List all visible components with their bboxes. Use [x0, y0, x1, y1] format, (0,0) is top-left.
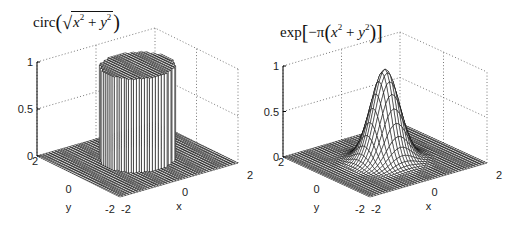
exp-y: 2: [107, 12, 112, 22]
x-tick-label: 2: [247, 169, 253, 181]
y-tick-label: 0: [65, 183, 71, 195]
z-tick-label: 1: [273, 60, 279, 72]
title-gaussian: exp[−π(x2 + y2)]: [280, 20, 383, 40]
x-axis-label: x: [426, 200, 432, 212]
y-tick-label: -2: [105, 203, 115, 215]
paren-open: (: [324, 21, 331, 43]
plot-gaussian: 00.51-202-202xy: [264, 32, 502, 215]
exp-x: 2: [80, 12, 85, 22]
y-tick-label: 2: [278, 156, 284, 168]
z-tick-label: 1: [27, 56, 33, 68]
title-paren-close: ): [113, 11, 120, 33]
var-x: x: [73, 14, 80, 30]
y-axis-label: y: [314, 201, 320, 213]
x-tick-label: 0: [182, 186, 188, 198]
y-tick-label: 2: [32, 155, 38, 167]
x-tick-label: 0: [431, 186, 437, 198]
figure: 00.51-202-202xy 00.51-202-202xy circ(√x2…: [0, 0, 512, 227]
x-tick-label: -2: [121, 203, 131, 215]
var-y: y: [358, 24, 365, 40]
radical-sign: √: [62, 13, 72, 33]
y-tick-label: -2: [355, 203, 365, 215]
x-tick-label: 2: [496, 169, 502, 181]
y-tick-label: 0: [313, 183, 319, 195]
minus-pi: −π: [308, 24, 324, 40]
title-fn: circ: [33, 14, 55, 30]
plots-canvas: 00.51-202-202xy 00.51-202-202xy: [0, 0, 512, 227]
exp-x: 2: [338, 22, 343, 32]
y-axis-label: y: [66, 201, 72, 213]
radicand: x2 + y2: [71, 11, 113, 30]
z-tick-label: 0.5: [18, 103, 33, 115]
var-y: y: [100, 14, 107, 30]
x-tick-label: -2: [371, 203, 381, 215]
title-circ: circ(√x2 + y2): [33, 10, 120, 30]
title-fn: exp: [280, 24, 302, 40]
bracket-open: [: [302, 21, 309, 43]
bracket-close: ]: [376, 21, 383, 43]
plot-circ: 00.51-202-202xy: [18, 28, 253, 215]
plus: +: [88, 14, 96, 30]
plus: +: [346, 24, 354, 40]
z-tick-label: 0.5: [264, 106, 279, 118]
x-axis-label: x: [176, 200, 182, 212]
var-x: x: [331, 24, 338, 40]
